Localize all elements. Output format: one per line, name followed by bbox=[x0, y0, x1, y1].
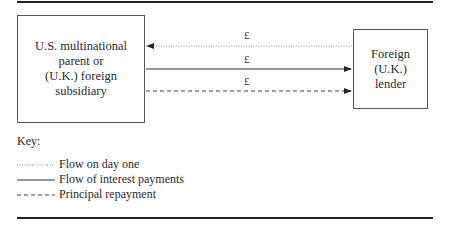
day-one-amount-label: £ bbox=[244, 29, 250, 41]
dashed-line-icon bbox=[17, 192, 55, 198]
key-item-dashed: Principal repayment bbox=[17, 187, 156, 202]
principal-amount-label: £ bbox=[244, 75, 250, 87]
key-label: Principal repayment bbox=[59, 187, 156, 202]
dotted-line-icon bbox=[17, 162, 55, 168]
bottom-rule bbox=[17, 217, 433, 219]
key-label: Flow of interest payments bbox=[59, 172, 184, 187]
key-item-dotted: Flow on day one bbox=[17, 157, 139, 172]
key-item-solid: Flow of interest payments bbox=[17, 172, 184, 187]
key-label: Flow on day one bbox=[59, 157, 139, 172]
key-title: Key: bbox=[17, 134, 40, 149]
interest-amount-label: £ bbox=[244, 53, 250, 65]
solid-line-icon bbox=[17, 177, 55, 183]
